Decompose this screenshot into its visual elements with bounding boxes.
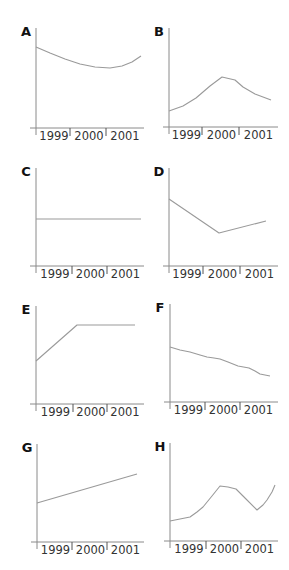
year-label: 2001 xyxy=(245,267,274,281)
year-label: 1999 xyxy=(174,403,203,417)
year-label: 2001 xyxy=(244,128,273,142)
year-label: 2000 xyxy=(210,542,239,556)
panel-label: A xyxy=(21,24,31,39)
year-label: 1999 xyxy=(41,405,70,419)
panel-a: A199920002001 xyxy=(21,24,144,143)
data-line xyxy=(170,485,275,521)
panel-label: G xyxy=(22,440,33,455)
year-label: 2000 xyxy=(207,128,236,142)
panel-b: B199920002001 xyxy=(154,24,278,142)
year-label: 2000 xyxy=(76,267,105,281)
year-label: 2001 xyxy=(244,403,273,417)
year-label: 2001 xyxy=(110,405,139,419)
panel-c: C199920002001 xyxy=(21,164,144,281)
year-label: 2000 xyxy=(76,543,105,557)
panel-label: H xyxy=(155,439,166,454)
panel-g: G199920002001 xyxy=(22,440,144,557)
year-label: 1999 xyxy=(174,542,203,556)
year-label: 2001 xyxy=(110,129,139,143)
year-label: 1999 xyxy=(41,543,70,557)
data-line xyxy=(169,199,266,233)
panel-label: E xyxy=(22,302,31,317)
data-line xyxy=(36,325,135,361)
panel-f: F199920002001 xyxy=(156,300,278,417)
year-label: 1999 xyxy=(172,128,201,142)
panel-d: D199920002001 xyxy=(154,164,278,281)
year-label: 2000 xyxy=(209,403,238,417)
year-label: 1999 xyxy=(172,267,201,281)
year-label: 2001 xyxy=(111,543,140,557)
panel-label: C xyxy=(21,164,31,179)
year-label: 2000 xyxy=(76,405,105,419)
panel-label: B xyxy=(154,24,164,39)
year-label: 2001 xyxy=(111,267,140,281)
data-line xyxy=(170,347,270,376)
panel-e: E199920002001 xyxy=(22,302,144,419)
figure: A199920002001B199920002001C199920002001D… xyxy=(0,0,289,570)
panel-label: D xyxy=(154,164,165,179)
panel-h: H199920002001 xyxy=(155,439,278,556)
data-line xyxy=(37,474,137,503)
panel-label: F xyxy=(156,300,165,315)
data-line xyxy=(36,47,141,68)
year-label: 1999 xyxy=(39,129,68,143)
year-label: 2001 xyxy=(245,542,274,556)
data-line xyxy=(169,77,271,111)
year-label: 1999 xyxy=(40,267,69,281)
year-label: 2000 xyxy=(74,129,103,143)
year-label: 2000 xyxy=(208,267,237,281)
